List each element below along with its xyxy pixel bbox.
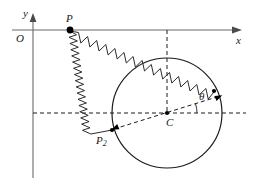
point-p-label: P	[66, 13, 73, 24]
spring-anchor-dot	[212, 89, 216, 93]
point-p2-label: P2	[96, 135, 107, 148]
point-p-dot	[67, 27, 74, 34]
figure-diagram	[0, 0, 257, 185]
spring-p-to-disc	[70, 31, 214, 99]
x-axis-arrowhead	[232, 27, 242, 34]
point-p2-dot	[110, 128, 114, 132]
y-axis-arrowhead	[30, 13, 37, 22]
point-p2-label-subscript: 2	[103, 139, 107, 148]
angle-theta-arc	[196, 104, 198, 113]
center-label: C	[166, 117, 173, 128]
point-c-dot	[165, 111, 169, 115]
x-axis-label: x	[236, 35, 241, 46]
angle-theta-label: θ	[199, 91, 204, 102]
y-axis-label: y	[23, 8, 28, 19]
origin-label: O	[16, 33, 24, 44]
point-p2-label-base: P	[96, 134, 103, 146]
diameter-arrowhead-upper-right	[214, 95, 222, 101]
figure-canvas: y x O P P2 C θ	[0, 0, 257, 185]
